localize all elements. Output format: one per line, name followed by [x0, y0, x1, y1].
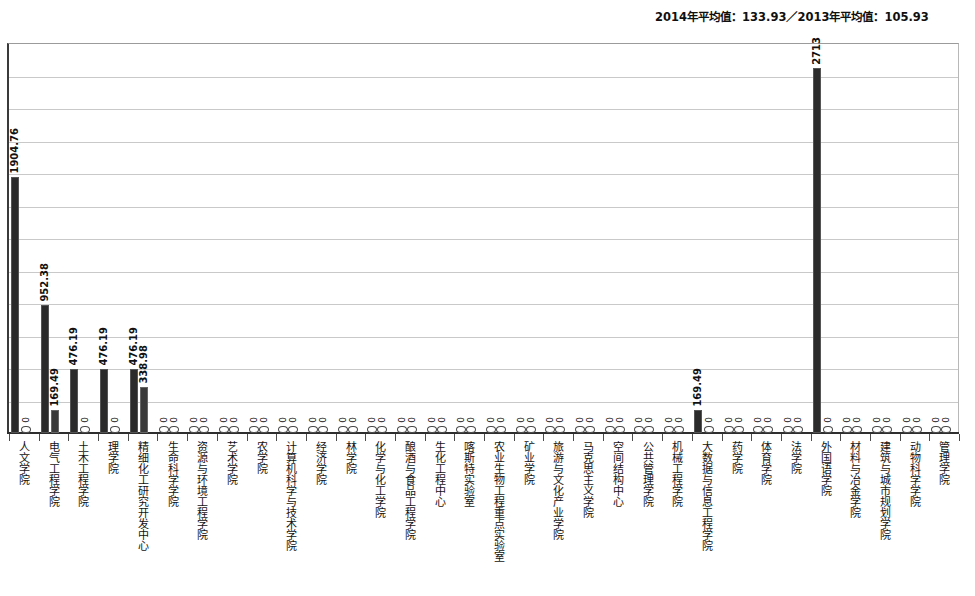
bar-group: 00 [454, 43, 484, 433]
bar-value-label: 0 [467, 417, 476, 423]
bar-value-label: 0 [675, 417, 684, 423]
bar-group: 00 [365, 43, 395, 433]
bar-value-label: 0 [289, 417, 298, 423]
category-label: 管理学院 [938, 441, 949, 485]
bar-value-label: 0 [407, 417, 416, 423]
bar-value-label: 0 [190, 417, 199, 423]
bar-2013: 0 [288, 426, 298, 433]
category-label: 法学院 [790, 441, 801, 474]
tickmark [959, 434, 960, 441]
bar-2014: 0 [338, 426, 348, 433]
tickmark [662, 434, 663, 441]
bar-group: 00 [781, 43, 811, 433]
bar-group: 27130 [811, 43, 841, 433]
category-label: 农业生物工程重点实验室 [493, 441, 504, 562]
tickmark [573, 434, 574, 441]
tickmark [514, 434, 515, 441]
bar-group: 952.38169.49 [39, 43, 69, 433]
bar-2013: 338.98 [140, 387, 148, 433]
bar-2014: 0 [308, 426, 318, 433]
bar-2013: 0 [407, 426, 417, 433]
bar-group: 00 [722, 43, 752, 433]
bar-value-label: 0 [734, 417, 743, 423]
bar-value-label: 338.98 [139, 345, 149, 384]
bar-value-label: 0 [704, 417, 713, 423]
category-label: 动物科学学院 [908, 441, 919, 507]
category-label: 马克思主义学院 [582, 441, 593, 518]
bar-2014: 0 [605, 426, 615, 433]
tickmark [276, 434, 277, 441]
tickmark [9, 434, 10, 441]
bar-2014: 0 [634, 426, 644, 433]
bar-value-label: 0 [724, 417, 733, 423]
tickmark [603, 434, 604, 441]
bar-value-label: 952.38 [40, 263, 50, 302]
bar-2014: 2713 [813, 68, 821, 433]
bar-value-label: 0 [615, 417, 624, 423]
bar-value-label: 0 [882, 417, 891, 423]
bar-value-label: 0 [912, 417, 921, 423]
category-label: 喀斯特实验室 [463, 441, 474, 507]
tickmark [751, 434, 752, 441]
bar-2013: 0 [466, 426, 476, 433]
category-label: 经济学院 [315, 441, 326, 485]
bar-group: 476.190 [68, 43, 98, 433]
bar-2014: 476.19 [70, 369, 78, 433]
bar-2013: 0 [734, 426, 744, 433]
bar-2014: 0 [575, 426, 585, 433]
bar-value-label: 0 [942, 417, 951, 423]
bar-value-label: 0 [665, 417, 674, 423]
bar-group: 00 [662, 43, 692, 433]
bar-2013: 0 [318, 426, 328, 433]
bar-value-label: 0 [457, 417, 466, 423]
bar-2013: 0 [377, 426, 387, 433]
bar-2014: 0 [931, 426, 941, 433]
tickmark [811, 434, 812, 441]
tickmark [900, 434, 901, 441]
bar-value-label: 169.49 [50, 368, 60, 407]
bar-2013: 0 [199, 426, 209, 433]
bar-2014: 169.49 [694, 410, 702, 433]
bar-value-label: 0 [437, 417, 446, 423]
tickmark [692, 434, 693, 441]
tickmark [781, 434, 782, 441]
bar-2013: 0 [348, 426, 358, 433]
bar-2013: 0 [110, 426, 120, 433]
bar-value-label: 0 [605, 417, 614, 423]
bar-group: 00 [840, 43, 870, 433]
tickmark [365, 434, 366, 441]
bar-2013: 0 [169, 426, 179, 433]
bar-value-label: 0 [754, 417, 763, 423]
tickmark [632, 434, 633, 441]
bar-group: 00 [632, 43, 662, 433]
bar-value-label: 0 [219, 417, 228, 423]
chart-root: 2014年平均值：133.93／2013年平均值：105.93 1904.760… [0, 0, 975, 596]
tickmark [722, 434, 723, 441]
category-label: 药学院 [730, 441, 741, 474]
tickmark [840, 434, 841, 441]
category-label: 林学院 [344, 441, 355, 474]
bar-2013: 0 [615, 426, 625, 433]
bar-2013: 169.49 [51, 410, 59, 433]
bar-value-label: 0 [170, 417, 179, 423]
bar-group: 00 [306, 43, 336, 433]
bar-value-label: 0 [200, 417, 209, 423]
bar-group: 00 [395, 43, 425, 433]
bar-value-label: 0 [338, 417, 347, 423]
bar-group: 00 [603, 43, 633, 433]
bar-2013: 0 [704, 426, 714, 433]
bar-2013: 0 [496, 426, 506, 433]
bar-value-label: 0 [902, 417, 911, 423]
bar-group: 00 [543, 43, 573, 433]
bar-value-label: 0 [516, 417, 525, 423]
bar-2013: 0 [882, 426, 892, 433]
bar-2014: 476.19 [130, 369, 138, 433]
category-label: 计算机科学与技术学院 [285, 441, 296, 551]
bar-2013: 0 [21, 426, 31, 433]
bars-layer: 1904.760952.38169.49476.190476.190476.19… [9, 43, 959, 433]
bar-value-label: 0 [556, 417, 565, 423]
bar-value-label: 0 [308, 417, 317, 423]
bar-2014: 0 [545, 426, 555, 433]
category-label: 大数据与信息工程学院 [701, 441, 712, 551]
bar-2013: 0 [555, 426, 565, 433]
